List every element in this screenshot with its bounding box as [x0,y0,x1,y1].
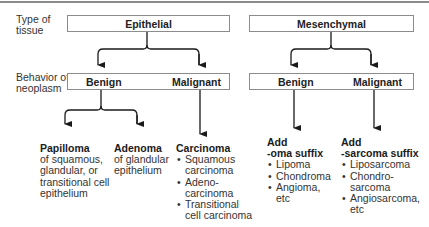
oma-list: Lipoma Chondroma Angioma,etc [267,159,331,204]
adenoma-line: epithelium [114,165,169,176]
carcinoma-block: Carcinoma Squamouscarcinoma Adeno-carcin… [176,143,252,221]
mesenchymal-box: Mesenchymal [249,15,414,32]
item-line: etc [350,204,420,215]
epithelial-box: Epithelial [67,15,230,32]
papilloma-line: epithelium [40,188,109,199]
oma-item: Lipoma [267,159,331,170]
oma-suffix-block: Add -oma suffix Lipoma Chondroma Angioma… [267,137,331,204]
item-line: etc [276,193,331,204]
mesenchymal-title: Mesenchymal [250,18,413,30]
adenoma-block: Adenoma of glandular epithelium [114,143,169,177]
item-line: Lipoma [276,159,331,170]
carcinoma-item: Adeno-carcinoma [176,177,252,199]
sarcoma-suffix-block: Add -sarcoma suffix Liposarcoma Chondro-… [341,137,420,215]
sarcoma-item: Angiosarcoma,etc [341,193,420,215]
papilloma-block: Papilloma of squamous, glandular, or tra… [40,143,109,199]
mesenchymal-benign-label: Benign [278,76,314,88]
epithelial-behavior-box: Benign Malignant [67,73,230,90]
carcinoma-list: Squamouscarcinoma Adeno-carcinoma Transi… [176,154,252,221]
sarcoma-item: Chondro-sarcoma [341,171,420,193]
epithelial-malignant-label: Malignant [172,76,221,88]
sarcoma-list: Liposarcoma Chondro-sarcoma Angiosarcoma… [341,159,420,215]
sarcoma-item: Liposarcoma [341,159,420,170]
carcinoma-item: Transitionalcell carcinoma [176,199,252,221]
item-line: cell carcinoma [185,210,252,221]
mesenchymal-malignant-label: Malignant [353,76,402,88]
epithelial-benign-label: Benign [86,76,122,88]
item-line: Liposarcoma [350,159,420,170]
carcinoma-item: Squamouscarcinoma [176,154,252,176]
oma-item: Angioma,etc [267,182,331,204]
item-line: carcinoma [185,165,252,176]
papilloma-line: glandular, or [40,165,109,176]
mesenchymal-behavior-box: Benign Malignant [249,73,414,90]
epithelial-title: Epithelial [68,18,229,30]
